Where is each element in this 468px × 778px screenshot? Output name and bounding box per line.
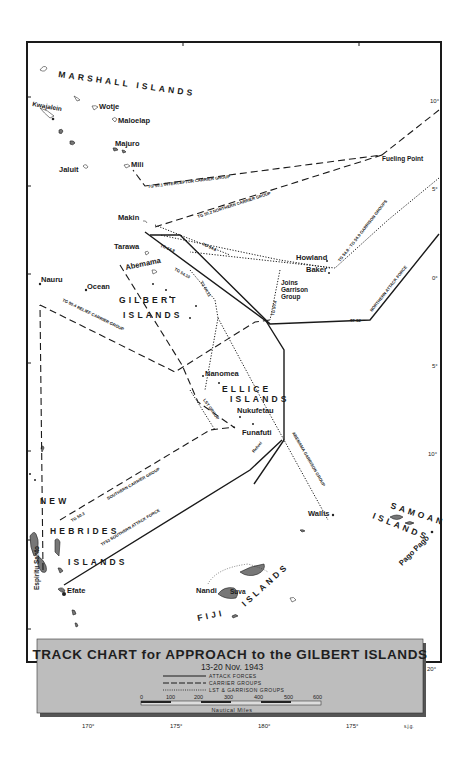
svg-text:Nandi: Nandi — [196, 586, 217, 595]
svg-text:Jaluit: Jaluit — [59, 165, 79, 174]
svg-text:Efate: Efate — [67, 586, 85, 595]
svg-text:5°: 5° — [432, 186, 438, 192]
svg-text:LST & GARRISON GROUPS: LST & GARRISON GROUPS — [209, 687, 285, 693]
svg-text:CARRIER GROUPS: CARRIER GROUPS — [209, 680, 262, 686]
svg-text:200: 200 — [194, 694, 203, 700]
svg-text:Makin: Makin — [118, 213, 140, 222]
svg-text:Tarawa: Tarawa — [114, 242, 140, 251]
svg-text:ISLANDS: ISLANDS — [123, 310, 183, 320]
svg-text:GILBERT: GILBERT — [119, 295, 179, 305]
svg-text:Wallis: Wallis — [308, 509, 329, 518]
track-chart-map: 10° 5° 0° 5° 10° 20° 170° 175° 180° 175°… — [0, 0, 468, 778]
legend-title: TRACK CHART for APPROACH to the GILBERT … — [32, 647, 427, 662]
svg-text:180°: 180° — [258, 723, 271, 729]
svg-text:Garrison: Garrison — [281, 286, 308, 293]
svg-text:10°: 10° — [428, 451, 438, 457]
svg-text:Howland: Howland — [296, 253, 328, 262]
svg-text:NEW: NEW — [40, 496, 69, 506]
svg-text:Ocean: Ocean — [87, 282, 110, 291]
svg-text:Suva: Suva — [230, 588, 246, 595]
svg-text:Nauru: Nauru — [41, 275, 63, 284]
svg-text:Baker: Baker — [306, 265, 327, 274]
svg-text:400: 400 — [254, 694, 263, 700]
svg-text:ISLANDS: ISLANDS — [230, 394, 290, 404]
svg-text:0°: 0° — [432, 275, 438, 281]
svg-text:ISLANDS: ISLANDS — [68, 557, 128, 567]
svg-text:175°: 175° — [170, 723, 183, 729]
svg-text:0: 0 — [140, 694, 143, 700]
svg-text:Mili: Mili — [131, 160, 144, 169]
svg-text:600: 600 — [313, 694, 322, 700]
svg-text:Joins: Joins — [281, 279, 298, 286]
svg-text:300: 300 — [224, 694, 233, 700]
svg-text:Nukufetau: Nukufetau — [237, 406, 274, 415]
svg-text:Group: Group — [281, 293, 301, 301]
svg-text:TF 52: TF 52 — [350, 318, 362, 323]
svg-text:Wotje: Wotje — [99, 102, 119, 111]
longitude-labels: 170° 175° 180° 175° s.j.g. — [82, 723, 414, 729]
svg-text:HEBRIDES: HEBRIDES — [50, 526, 120, 536]
legend-date: 13-20 Nov. 1943 — [201, 662, 263, 672]
svg-text:Maloelap: Maloelap — [118, 116, 151, 125]
svg-text:5°: 5° — [432, 363, 438, 369]
svg-text:500: 500 — [284, 694, 293, 700]
svg-text:175°: 175° — [346, 723, 359, 729]
svg-text:20°: 20° — [427, 666, 437, 672]
svg-text:Fueling Point: Fueling Point — [382, 155, 424, 163]
svg-text:Nautical Miles: Nautical Miles — [211, 707, 252, 713]
svg-text:100: 100 — [166, 694, 175, 700]
svg-text:170°: 170° — [82, 723, 95, 729]
svg-text:Nanomea: Nanomea — [205, 369, 240, 378]
svg-text:10°: 10° — [430, 98, 440, 104]
svg-text:Majuro: Majuro — [115, 139, 140, 148]
svg-text:ATTACK FORCES: ATTACK FORCES — [209, 673, 257, 679]
svg-text:s.j.g.: s.j.g. — [404, 724, 414, 729]
svg-text:ELLICE: ELLICE — [222, 384, 271, 394]
legend-box: TRACK CHART for APPROACH to the GILBERT … — [32, 639, 427, 717]
svg-text:Funafuti: Funafuti — [242, 428, 272, 437]
svg-text:Espiritu Santo: Espiritu Santo — [33, 546, 41, 590]
